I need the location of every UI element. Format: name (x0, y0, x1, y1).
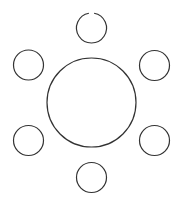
seating-diagram (0, 0, 177, 204)
background (0, 0, 177, 204)
